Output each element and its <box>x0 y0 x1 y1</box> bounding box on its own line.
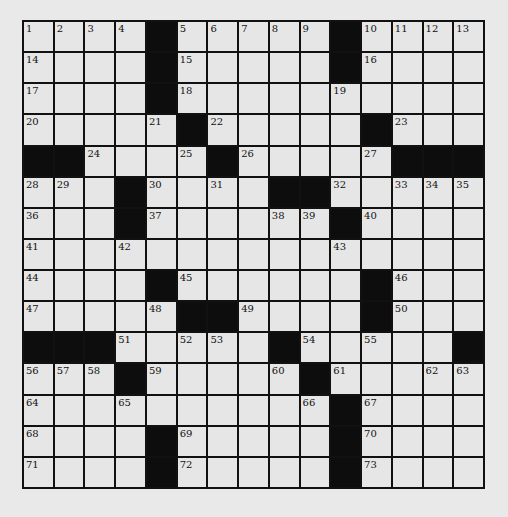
grid-cell[interactable]: 17 <box>24 84 53 113</box>
grid-cell[interactable] <box>301 458 330 487</box>
grid-cell[interactable]: 44 <box>24 271 53 300</box>
grid-cell[interactable] <box>55 115 84 144</box>
grid-cell[interactable]: 41 <box>24 240 53 269</box>
grid-cell[interactable] <box>362 364 391 393</box>
grid-cell[interactable]: 43 <box>331 240 360 269</box>
grid-cell[interactable]: 47 <box>24 302 53 331</box>
grid-cell[interactable]: 8 <box>270 22 299 51</box>
grid-cell[interactable] <box>208 458 237 487</box>
grid-cell[interactable] <box>208 84 237 113</box>
grid-cell[interactable]: 62 <box>424 364 453 393</box>
grid-cell[interactable]: 66 <box>301 396 330 425</box>
grid-cell[interactable]: 48 <box>147 302 176 331</box>
grid-cell[interactable]: 20 <box>24 115 53 144</box>
grid-cell[interactable] <box>239 209 268 238</box>
grid-cell[interactable]: 40 <box>362 209 391 238</box>
grid-cell[interactable]: 55 <box>362 333 391 362</box>
grid-cell[interactable]: 51 <box>116 333 145 362</box>
grid-cell[interactable] <box>424 209 453 238</box>
grid-cell[interactable] <box>393 333 422 362</box>
grid-cell[interactable] <box>147 333 176 362</box>
grid-cell[interactable] <box>331 115 360 144</box>
grid-cell[interactable] <box>239 178 268 207</box>
grid-cell[interactable]: 65 <box>116 396 145 425</box>
grid-cell[interactable]: 72 <box>178 458 207 487</box>
grid-cell[interactable]: 30 <box>147 178 176 207</box>
grid-cell[interactable] <box>331 147 360 176</box>
grid-cell[interactable]: 4 <box>116 22 145 51</box>
grid-cell[interactable] <box>85 115 114 144</box>
grid-cell[interactable] <box>362 84 391 113</box>
grid-cell[interactable]: 70 <box>362 427 391 456</box>
grid-cell[interactable] <box>270 53 299 82</box>
grid-cell[interactable]: 54 <box>301 333 330 362</box>
grid-cell[interactable] <box>85 458 114 487</box>
grid-cell[interactable] <box>239 364 268 393</box>
grid-cell[interactable] <box>454 396 483 425</box>
grid-cell[interactable] <box>178 209 207 238</box>
grid-cell[interactable] <box>116 427 145 456</box>
grid-cell[interactable]: 28 <box>24 178 53 207</box>
grid-cell[interactable]: 22 <box>208 115 237 144</box>
grid-cell[interactable]: 39 <box>301 209 330 238</box>
grid-cell[interactable] <box>239 396 268 425</box>
grid-cell[interactable] <box>116 458 145 487</box>
grid-cell[interactable]: 19 <box>331 84 360 113</box>
grid-cell[interactable] <box>116 271 145 300</box>
grid-cell[interactable] <box>301 302 330 331</box>
grid-cell[interactable] <box>270 302 299 331</box>
grid-cell[interactable] <box>393 240 422 269</box>
grid-cell[interactable]: 3 <box>85 22 114 51</box>
grid-cell[interactable] <box>270 147 299 176</box>
grid-cell[interactable] <box>424 396 453 425</box>
grid-cell[interactable]: 27 <box>362 147 391 176</box>
grid-cell[interactable] <box>239 53 268 82</box>
grid-cell[interactable] <box>270 115 299 144</box>
grid-cell[interactable] <box>116 53 145 82</box>
grid-cell[interactable] <box>55 458 84 487</box>
grid-cell[interactable] <box>301 53 330 82</box>
grid-cell[interactable]: 15 <box>178 53 207 82</box>
grid-cell[interactable] <box>55 427 84 456</box>
grid-cell[interactable] <box>454 302 483 331</box>
grid-cell[interactable]: 18 <box>178 84 207 113</box>
grid-cell[interactable] <box>454 458 483 487</box>
grid-cell[interactable]: 21 <box>147 115 176 144</box>
grid-cell[interactable] <box>454 240 483 269</box>
grid-cell[interactable] <box>239 240 268 269</box>
grid-cell[interactable]: 53 <box>208 333 237 362</box>
grid-cell[interactable] <box>55 240 84 269</box>
grid-cell[interactable] <box>393 427 422 456</box>
grid-cell[interactable]: 14 <box>24 53 53 82</box>
grid-cell[interactable] <box>301 240 330 269</box>
grid-cell[interactable] <box>85 240 114 269</box>
grid-cell[interactable] <box>239 271 268 300</box>
grid-cell[interactable] <box>424 271 453 300</box>
grid-cell[interactable] <box>393 84 422 113</box>
grid-cell[interactable]: 64 <box>24 396 53 425</box>
grid-cell[interactable] <box>424 240 453 269</box>
grid-cell[interactable]: 50 <box>393 302 422 331</box>
grid-cell[interactable] <box>424 333 453 362</box>
grid-cell[interactable]: 12 <box>424 22 453 51</box>
grid-cell[interactable] <box>393 458 422 487</box>
grid-cell[interactable]: 68 <box>24 427 53 456</box>
grid-cell[interactable]: 31 <box>208 178 237 207</box>
grid-cell[interactable] <box>393 209 422 238</box>
grid-cell[interactable]: 36 <box>24 209 53 238</box>
grid-cell[interactable] <box>301 147 330 176</box>
grid-cell[interactable] <box>424 458 453 487</box>
grid-cell[interactable] <box>208 427 237 456</box>
grid-cell[interactable] <box>362 240 391 269</box>
grid-cell[interactable] <box>239 84 268 113</box>
grid-cell[interactable] <box>85 84 114 113</box>
grid-cell[interactable]: 25 <box>178 147 207 176</box>
grid-cell[interactable]: 6 <box>208 22 237 51</box>
grid-cell[interactable] <box>454 53 483 82</box>
grid-cell[interactable] <box>454 115 483 144</box>
grid-cell[interactable]: 63 <box>454 364 483 393</box>
grid-cell[interactable]: 49 <box>239 302 268 331</box>
grid-cell[interactable]: 7 <box>239 22 268 51</box>
grid-cell[interactable] <box>393 396 422 425</box>
grid-cell[interactable]: 73 <box>362 458 391 487</box>
